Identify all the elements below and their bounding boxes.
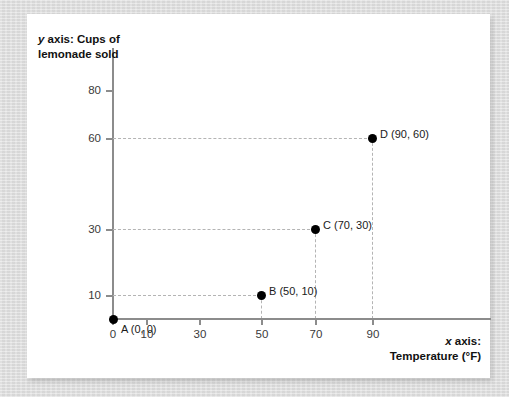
x-tick-mark-90 — [372, 318, 374, 325]
y-axis-title-rest: axis: Cups of — [44, 33, 119, 45]
gridline-horizontal-60 — [113, 138, 372, 139]
x-axis-title: x axis: Temperature (°F) — [333, 334, 481, 364]
x-tick-label-50: 50 — [242, 329, 282, 341]
data-point-b[interactable] — [257, 291, 266, 300]
x-tick-mark-70 — [315, 318, 317, 325]
x-axis-title-rest: axis: — [452, 335, 481, 347]
gridline-vertical-90 — [372, 138, 373, 319]
y-tick-label-30: 30 — [61, 224, 101, 236]
y-tick-mark-80 — [106, 90, 113, 92]
y-axis-title: y axis: Cups of lemonade sold — [38, 32, 104, 62]
data-point-label-b: B (50, 10) — [269, 286, 317, 297]
data-point-a[interactable] — [109, 315, 118, 324]
data-point-label-c: C (70, 30) — [323, 220, 372, 231]
y-tick-label-80: 80 — [61, 85, 101, 97]
gridline-horizontal-10 — [113, 295, 261, 296]
y-tick-mark-60 — [106, 138, 113, 140]
gridline-horizontal-30 — [113, 229, 315, 230]
y-tick-mark-30 — [106, 229, 113, 231]
data-point-label-d: D (90, 60) — [380, 129, 429, 140]
figure-panel: 80 60 30 10 0 10 30 50 70 90 A (0, 0) B … — [27, 14, 490, 378]
x-tick-mark-30 — [199, 318, 201, 325]
data-point-d[interactable] — [368, 134, 377, 143]
x-tick-mark-50 — [261, 318, 263, 325]
data-point-c[interactable] — [311, 225, 320, 234]
x-tick-label-30: 30 — [180, 329, 220, 341]
gridline-vertical-70 — [315, 229, 316, 319]
screenshot-root: 80 60 30 10 0 10 30 50 70 90 A (0, 0) B … — [0, 0, 509, 397]
y-tick-label-10: 10 — [61, 290, 101, 302]
x-tick-label-70: 70 — [296, 329, 336, 341]
x-axis-title-line2: Temperature (°F) — [390, 350, 481, 362]
x-axis-line — [112, 318, 491, 320]
scatter-plot: 80 60 30 10 0 10 30 50 70 90 A (0, 0) B … — [27, 14, 490, 378]
data-point-label-a: A (0, 0) — [121, 324, 156, 335]
y-tick-label-60: 60 — [61, 133, 101, 145]
y-tick-mark-10 — [106, 295, 113, 297]
y-axis-title-line2: lemonade sold — [38, 48, 119, 60]
y-axis-line — [112, 48, 114, 320]
